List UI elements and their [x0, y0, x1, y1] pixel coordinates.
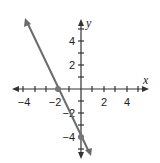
x-tick-label: −4 — [18, 96, 31, 108]
x-intercept-point — [55, 86, 61, 92]
coordinate-plane: x y −4 −2 2 4 4 2 −2 −4 — [0, 0, 160, 163]
x-axis-label: x — [142, 73, 149, 87]
y-tick-label: 4 — [69, 35, 75, 47]
y-axis-label: y — [85, 16, 92, 30]
data-line — [24, 18, 92, 156]
x-tick-label: −2 — [49, 96, 62, 108]
x-tick-label: 2 — [101, 96, 107, 108]
y-tick-label: −4 — [62, 131, 75, 143]
y-intercept-point — [78, 134, 84, 140]
x-tick-label: 4 — [124, 96, 130, 108]
y-tick-label: 2 — [69, 59, 75, 71]
